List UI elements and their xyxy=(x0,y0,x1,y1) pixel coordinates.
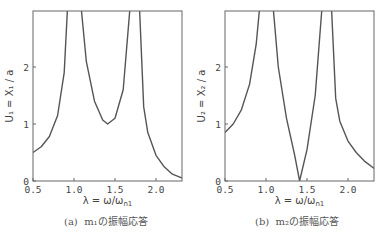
y-axis-label: U₁ = X₁ / a xyxy=(4,70,15,123)
x-tick-label: 2.0 xyxy=(147,184,164,195)
caption-text: m₂の振幅応答 xyxy=(276,216,340,227)
x-axis-label: λ = ω/ωn1 xyxy=(83,195,133,208)
figure: 0120.51.01.52.0λ = ω/ωn1U₁ = X₁ / a0120.… xyxy=(0,0,381,240)
plot-frame xyxy=(225,11,374,181)
y-tick-label: 1 xyxy=(23,119,29,130)
response-curve xyxy=(140,10,183,178)
x-tick-label: 1.5 xyxy=(106,184,123,195)
x-axis-label: λ = ω/ωn1 xyxy=(275,195,325,208)
y-tick-label: 2 xyxy=(215,62,221,73)
y-axis-label: U₂ = X₂ / a xyxy=(196,70,207,123)
x-tick-label: 2.0 xyxy=(339,184,356,195)
x-tick-label: 1.5 xyxy=(298,184,315,195)
response-curve xyxy=(273,10,321,181)
caption-letter: (b) xyxy=(255,216,269,227)
y-tick-label: 1 xyxy=(215,119,221,130)
caption-letter: (a) xyxy=(64,216,78,227)
response-curve xyxy=(81,10,129,124)
chart-panel-a: 0120.51.01.52.0λ = ω/ωn1U₁ = X₁ / a xyxy=(4,10,182,208)
caption-text: m₁の振幅応答 xyxy=(84,216,148,227)
caption-a: (a) m₁の振幅応答 xyxy=(64,213,148,228)
plot-frame xyxy=(33,11,182,181)
x-tick-label: 0.5 xyxy=(24,184,41,195)
y-tick-label: 2 xyxy=(23,62,29,73)
x-tick-label: 1.0 xyxy=(65,184,82,195)
response-curve xyxy=(33,10,67,153)
chart-panel-b: 0120.51.01.52.0λ = ω/ωn1U₂ = X₂ / a xyxy=(196,10,374,208)
caption-b: (b) m₂の振幅応答 xyxy=(255,213,339,228)
x-tick-label: 1.0 xyxy=(257,184,274,195)
x-tick-label: 0.5 xyxy=(216,184,233,195)
response-curve xyxy=(332,10,375,169)
response-curve xyxy=(225,10,259,133)
